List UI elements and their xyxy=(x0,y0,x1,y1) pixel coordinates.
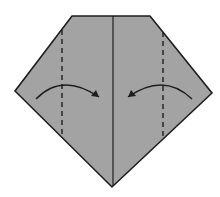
origami-diagram xyxy=(0,0,220,197)
diagram-canvas xyxy=(0,0,220,197)
